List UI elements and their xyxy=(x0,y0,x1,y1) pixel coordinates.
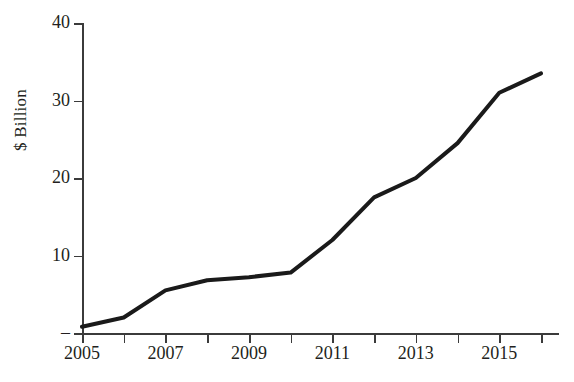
x-tick-label: 2015 xyxy=(464,344,534,362)
data-series-line xyxy=(82,73,541,326)
x-tick-label: 2007 xyxy=(130,344,200,362)
x-axis-tick xyxy=(165,334,167,343)
x-axis-tick xyxy=(374,334,376,343)
x-tick-label: 2009 xyxy=(214,344,284,362)
plot-area xyxy=(0,0,574,382)
x-axis-tick xyxy=(458,334,460,343)
x-axis-tick xyxy=(124,334,126,343)
x-axis-tick xyxy=(207,334,209,343)
y-tick-label: 30 xyxy=(30,91,70,109)
x-axis-tick xyxy=(499,334,501,343)
y-tick-label: 10 xyxy=(30,246,70,264)
line-chart: $ Billion –10203040 20052007200920112013… xyxy=(0,0,574,382)
x-tick-label: 2011 xyxy=(297,344,367,362)
x-axis-tick xyxy=(82,334,84,343)
x-axis-tick xyxy=(416,334,418,343)
x-axis-tick xyxy=(541,334,543,343)
y-axis-title: $ Billion xyxy=(11,55,31,185)
x-axis-tick xyxy=(332,334,334,343)
y-tick-label: – xyxy=(30,323,70,341)
x-tick-label: 2013 xyxy=(381,344,451,362)
x-axis-tick xyxy=(249,334,251,343)
x-axis-line xyxy=(82,333,559,335)
y-tick-label: 20 xyxy=(30,168,70,186)
x-axis-tick xyxy=(291,334,293,343)
y-axis-line xyxy=(82,23,84,334)
x-tick-label: 2005 xyxy=(47,344,117,362)
y-tick-label: 40 xyxy=(30,13,70,31)
